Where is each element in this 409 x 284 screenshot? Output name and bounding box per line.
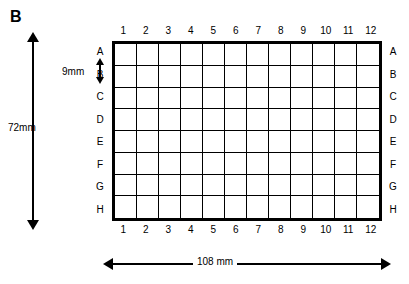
column-label: 12 bbox=[360, 25, 383, 36]
well-H4 bbox=[181, 196, 203, 218]
well-pitch-dimension-label: 9mm bbox=[62, 66, 84, 77]
well-E12 bbox=[357, 131, 379, 153]
well-A9 bbox=[291, 44, 313, 66]
row-label: A bbox=[386, 41, 400, 64]
well-C12 bbox=[357, 88, 379, 110]
row-label: G bbox=[93, 176, 107, 199]
well-E4 bbox=[181, 131, 203, 153]
row-label: A bbox=[93, 41, 107, 64]
well-H12 bbox=[357, 196, 379, 218]
well-E9 bbox=[291, 131, 313, 153]
well-B8 bbox=[269, 66, 291, 88]
well-A11 bbox=[335, 44, 357, 66]
column-label: 8 bbox=[270, 224, 293, 235]
well-F2 bbox=[137, 153, 159, 175]
column-label: 6 bbox=[225, 224, 248, 235]
well-D5 bbox=[203, 109, 225, 131]
well-B10 bbox=[313, 66, 335, 88]
row-label: F bbox=[93, 154, 107, 177]
column-label: 4 bbox=[180, 224, 203, 235]
row-labels-left: A B C D E F G H bbox=[93, 41, 107, 221]
well-A2 bbox=[137, 44, 159, 66]
well-G6 bbox=[225, 175, 247, 197]
row-label: G bbox=[386, 176, 400, 199]
well-H6 bbox=[225, 196, 247, 218]
well-F6 bbox=[225, 153, 247, 175]
well-H7 bbox=[247, 196, 269, 218]
arrow-left-icon bbox=[103, 258, 113, 270]
row-label: B bbox=[93, 64, 107, 87]
well-H9 bbox=[291, 196, 313, 218]
well-B11 bbox=[335, 66, 357, 88]
well-D7 bbox=[247, 109, 269, 131]
microplate bbox=[112, 41, 382, 221]
well-B9 bbox=[291, 66, 313, 88]
well-C8 bbox=[269, 88, 291, 110]
well-E1 bbox=[115, 131, 137, 153]
well-B3 bbox=[159, 66, 181, 88]
column-label: 6 bbox=[225, 25, 248, 36]
well-grid bbox=[115, 44, 379, 218]
row-label: C bbox=[93, 86, 107, 109]
well-C9 bbox=[291, 88, 313, 110]
well-C5 bbox=[203, 88, 225, 110]
well-G4 bbox=[181, 175, 203, 197]
row-label: H bbox=[93, 199, 107, 222]
well-G10 bbox=[313, 175, 335, 197]
well-A4 bbox=[181, 44, 203, 66]
well-A12 bbox=[357, 44, 379, 66]
well-F8 bbox=[269, 153, 291, 175]
column-label: 5 bbox=[202, 224, 225, 235]
well-A8 bbox=[269, 44, 291, 66]
arrow-right-icon bbox=[381, 258, 391, 270]
column-label: 7 bbox=[247, 25, 270, 36]
column-label: 3 bbox=[157, 224, 180, 235]
well-C6 bbox=[225, 88, 247, 110]
well-F4 bbox=[181, 153, 203, 175]
well-A7 bbox=[247, 44, 269, 66]
row-label: C bbox=[386, 86, 400, 109]
well-H10 bbox=[313, 196, 335, 218]
well-D10 bbox=[313, 109, 335, 131]
well-D11 bbox=[335, 109, 357, 131]
well-F10 bbox=[313, 153, 335, 175]
well-B5 bbox=[203, 66, 225, 88]
well-F5 bbox=[203, 153, 225, 175]
well-E11 bbox=[335, 131, 357, 153]
well-G11 bbox=[335, 175, 357, 197]
width-dimension-label: 108 mm bbox=[193, 256, 237, 267]
column-labels-top: 1 2 3 4 5 6 7 8 9 10 11 12 bbox=[112, 25, 382, 36]
well-F3 bbox=[159, 153, 181, 175]
plate-diagram: B 72mm 9mm 1 2 3 4 5 6 7 8 9 10 11 12 A … bbox=[0, 0, 409, 284]
row-label: H bbox=[386, 199, 400, 222]
well-G3 bbox=[159, 175, 181, 197]
well-G7 bbox=[247, 175, 269, 197]
well-D9 bbox=[291, 109, 313, 131]
column-label: 4 bbox=[180, 25, 203, 36]
well-D4 bbox=[181, 109, 203, 131]
well-E3 bbox=[159, 131, 181, 153]
row-label: F bbox=[386, 154, 400, 177]
well-C4 bbox=[181, 88, 203, 110]
well-G2 bbox=[137, 175, 159, 197]
well-B1 bbox=[115, 66, 137, 88]
well-C10 bbox=[313, 88, 335, 110]
column-labels-bottom: 1 2 3 4 5 6 7 8 9 10 11 12 bbox=[112, 224, 382, 235]
well-B4 bbox=[181, 66, 203, 88]
column-label: 5 bbox=[202, 25, 225, 36]
well-F12 bbox=[357, 153, 379, 175]
well-B12 bbox=[357, 66, 379, 88]
well-E5 bbox=[203, 131, 225, 153]
well-H8 bbox=[269, 196, 291, 218]
column-label: 2 bbox=[135, 224, 158, 235]
well-G8 bbox=[269, 175, 291, 197]
column-label: 11 bbox=[337, 25, 360, 36]
column-label: 11 bbox=[337, 224, 360, 235]
well-B6 bbox=[225, 66, 247, 88]
well-E2 bbox=[137, 131, 159, 153]
well-A6 bbox=[225, 44, 247, 66]
row-label: E bbox=[93, 131, 107, 154]
arrow-up-icon bbox=[27, 32, 39, 42]
arrow-down-icon bbox=[27, 220, 39, 230]
well-F9 bbox=[291, 153, 313, 175]
